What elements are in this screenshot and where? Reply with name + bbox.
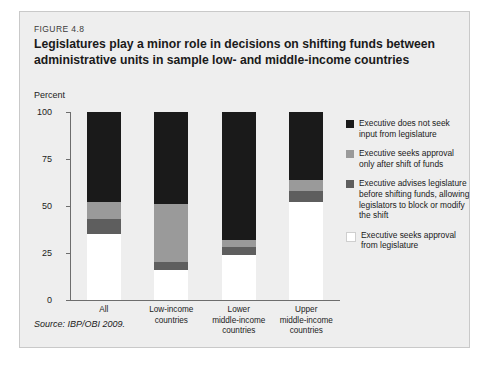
legend-label: Executive does not seek input from legis… [359,118,470,139]
bar-segment[interactable] [222,112,256,240]
bar-segment[interactable] [154,112,188,204]
bar-segment[interactable] [289,112,323,180]
bar-segment[interactable] [222,240,256,248]
legend-item[interactable]: Executive does not seek input from legis… [346,118,470,139]
y-tick-mark [66,253,70,254]
y-tick-mark [66,159,70,160]
bar-segment[interactable] [289,202,323,300]
bar-segment[interactable] [289,191,323,202]
bar-segment[interactable] [222,255,256,300]
y-tick-mark [66,300,70,301]
legend-item[interactable]: Executive seeks approval from legislatur… [346,230,470,251]
bar-segment[interactable] [87,234,121,300]
chart-plot-area: 0255075100 AllLow-incomecountriesLowermi… [70,112,340,301]
bar-1[interactable] [87,112,121,300]
legend-item[interactable]: Executive advises legislature before shi… [346,178,470,220]
legend-swatch-icon [346,180,354,188]
legend-item[interactable]: Executive seeks approval only after shif… [346,148,470,169]
y-axis-title: Percent [34,90,65,100]
x-axis-line [70,300,340,301]
figure-title: Legislatures play a minor role in decisi… [34,36,446,68]
bar-segment[interactable] [289,180,323,191]
bar-segment[interactable] [154,204,188,262]
legend-swatch-icon [346,150,354,158]
chart-legend: Executive does not seek input from legis… [346,118,470,260]
bar-segment[interactable] [154,262,188,270]
y-axis-line [70,112,71,301]
bar-segment[interactable] [87,202,121,219]
x-tick-label-line: Upper [263,305,349,316]
y-tick-mark [66,206,70,207]
y-tick-mark [66,112,70,113]
y-tick-label: 25 [12,248,52,258]
figure-number: FIGURE 4.8 [34,24,84,34]
legend-swatch-icon [346,232,356,242]
bar-3[interactable] [222,112,256,300]
x-tick-label-line: countries [263,326,349,337]
legend-label: Executive advises legislature before shi… [359,178,470,220]
y-tick-label: 100 [12,107,52,117]
source-note: Source: IBP/OBI 2009. [34,319,125,329]
y-tick-label: 0 [12,295,52,305]
figure-panel: FIGURE 4.8 Legislatures play a minor rol… [19,11,470,348]
legend-swatch-icon [346,120,354,128]
bar-2[interactable] [154,112,188,300]
bar-4[interactable] [289,112,323,300]
bar-segment[interactable] [222,247,256,255]
x-tick-label-line: middle-income [263,316,349,327]
legend-label: Executive seeks approval only after shif… [359,148,470,169]
x-tick-label: Uppermiddle-incomecountries [263,305,349,337]
legend-label: Executive seeks approval from legislatur… [361,230,470,251]
y-tick-label: 75 [12,154,52,164]
bar-segment[interactable] [154,270,188,300]
y-tick-label: 50 [12,201,52,211]
bar-segment[interactable] [87,112,121,202]
bar-segment[interactable] [87,219,121,234]
